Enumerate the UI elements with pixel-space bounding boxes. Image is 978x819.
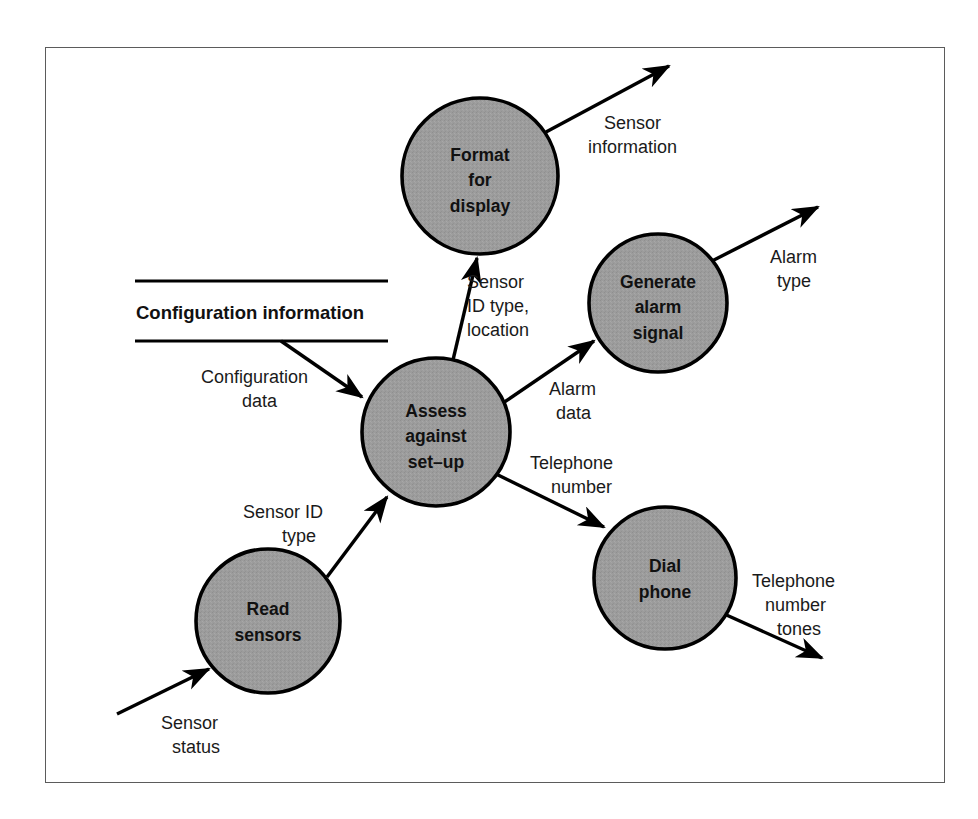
process-read-sensors[interactable]: Read sensors <box>196 549 340 693</box>
process-label-line-1: Dial <box>649 556 681 576</box>
process-label-line-1: Generate <box>620 272 696 292</box>
process-assess-against-set-up[interactable]: Assess against set–up <box>362 358 510 506</box>
flow-label-line-1: Sensor ID <box>243 502 323 522</box>
process-circle <box>196 549 340 693</box>
flow-label-line-3: tones <box>777 619 821 639</box>
process-label-line-3: signal <box>633 323 684 343</box>
flow-label-line-2: status <box>172 737 220 757</box>
flow-label-line-2: type <box>282 526 316 546</box>
flow-label-line-1: Sensor <box>161 713 218 733</box>
flow-label-configuration-data: Configuration data <box>201 367 308 411</box>
flow-label-sensor-status: Sensor status <box>161 713 220 757</box>
flow-label-line-2: ID type, <box>467 296 529 316</box>
process-circle <box>594 507 736 649</box>
flow-label-line-2: information <box>588 137 677 157</box>
flow-label-line-2: data <box>242 391 278 411</box>
process-format-for-display[interactable]: Format for display <box>402 98 558 254</box>
flow-label-telephone-number: Telephone number <box>530 453 613 497</box>
process-label-line-1: Assess <box>405 401 467 421</box>
flow-label-line-1: Telephone <box>530 453 613 473</box>
flow-label-alarm-data: Alarm data <box>549 379 596 423</box>
process-label-line-2: sensors <box>234 625 301 645</box>
flow-arrow-sensor-status <box>117 669 209 714</box>
data-store-label: Configuration information <box>136 302 364 323</box>
data-flow-diagram: Configuration information Format for dis… <box>0 0 978 819</box>
flow-label-line-2: number <box>765 595 826 615</box>
flow-label-sensor-information: Sensor information <box>588 113 677 157</box>
process-label-line-2: against <box>405 426 466 446</box>
diagram-page: Configuration information Format for dis… <box>0 0 978 819</box>
flow-label-line-1: Configuration <box>201 367 308 387</box>
flow-label-line-1: Telephone <box>752 571 835 591</box>
process-label-line-1: Format <box>450 145 509 165</box>
process-label-line-2: phone <box>639 582 692 602</box>
flow-label-line-2: data <box>556 403 592 423</box>
flow-label-alarm-type: Alarm type <box>770 247 817 291</box>
process-label-line-3: display <box>450 196 511 216</box>
flow-arrow-sensor-id-type <box>327 497 387 577</box>
flow-label-line-2: type <box>777 271 811 291</box>
flow-label-sensor-id-type: Sensor ID type <box>243 502 323 546</box>
process-label-line-1: Read <box>247 599 290 619</box>
process-generate-alarm-signal[interactable]: Generate alarm signal <box>589 234 727 372</box>
process-label-line-3: set–up <box>408 452 464 472</box>
flow-label-line-1: Sensor <box>467 272 524 292</box>
flow-label-line-2: number <box>551 477 612 497</box>
flow-label-line-3: location <box>467 320 529 340</box>
data-store-configuration-information[interactable]: Configuration information <box>135 281 388 341</box>
process-dial-phone[interactable]: Dial phone <box>594 507 736 649</box>
process-label-line-2: alarm <box>635 297 682 317</box>
flow-label-line-1: Alarm <box>770 247 817 267</box>
flow-label-line-1: Sensor <box>604 113 661 133</box>
process-label-line-2: for <box>468 170 492 190</box>
flow-label-telephone-number-tones: Telephone number tones <box>752 571 835 639</box>
flow-label-sensor-id-type-location: Sensor ID type, location <box>467 272 529 340</box>
flow-label-line-1: Alarm <box>549 379 596 399</box>
